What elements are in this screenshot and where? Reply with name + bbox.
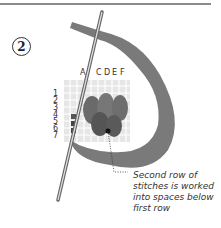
callout-line: Second row of: [133, 170, 221, 181]
callout-line: first row: [133, 203, 221, 214]
column-label: E: [112, 68, 117, 77]
callout-line: into spaces below: [133, 192, 221, 203]
callout-text: Second row of stitches is worked into sp…: [133, 170, 221, 214]
callout-line: stitches is worked: [133, 181, 221, 192]
column-label: C: [96, 68, 102, 77]
row-label: 7: [53, 132, 58, 140]
column-label: F: [120, 68, 125, 77]
column-label: A: [80, 68, 85, 77]
column-label: D: [104, 68, 110, 77]
